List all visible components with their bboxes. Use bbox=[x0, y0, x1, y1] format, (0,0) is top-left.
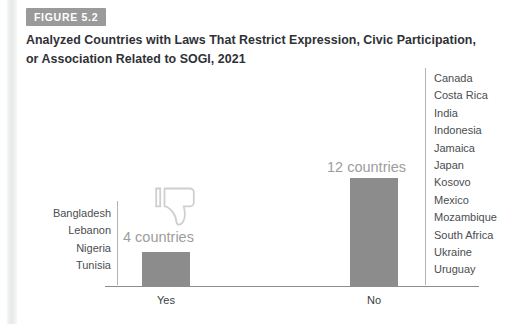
x-axis-line bbox=[105, 286, 479, 287]
x-axis-tick-yes: Yes bbox=[142, 294, 190, 306]
thumbs-down-icon bbox=[152, 186, 198, 228]
bar-no bbox=[350, 178, 398, 286]
figure-container: FIGURE 5.2 Analyzed Countries with Laws … bbox=[0, 0, 529, 324]
yes-country-list: Bangladesh Lebanon Nigeria Tunisia bbox=[18, 205, 111, 275]
bar-no-value-label: 12 countries bbox=[327, 159, 406, 175]
bar-yes bbox=[142, 252, 190, 286]
no-list-divider bbox=[425, 68, 426, 285]
chart-plot-area: Bangladesh Lebanon Nigeria Tunisia Canad… bbox=[0, 0, 529, 324]
no-country-list: Canada Costa Rica India Indonesia Jamaic… bbox=[434, 70, 524, 279]
x-axis-tick-no: No bbox=[350, 294, 398, 306]
yes-list-divider bbox=[117, 201, 118, 285]
bar-yes-value-label: 4 countries bbox=[123, 229, 194, 245]
